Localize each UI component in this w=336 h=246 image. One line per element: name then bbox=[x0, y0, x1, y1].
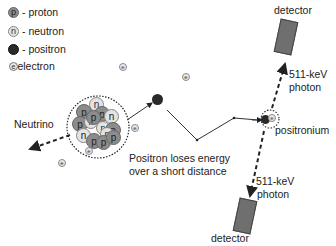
photon-arrow-up bbox=[272, 64, 285, 108]
detector-bottom-label: detector bbox=[211, 232, 249, 244]
proton-particle: p bbox=[106, 130, 121, 145]
neutrino-label: Neutrino bbox=[14, 118, 54, 130]
positron-path bbox=[167, 110, 258, 140]
photon-top-label-1: 511-keV bbox=[289, 68, 327, 80]
electron-particle: e bbox=[131, 124, 139, 132]
positronium-label: positronium bbox=[275, 124, 329, 136]
detector-top-label: detector bbox=[274, 4, 312, 16]
positron-travel-label-1: Positron loses energy bbox=[129, 152, 230, 164]
electron-particle: e bbox=[85, 147, 93, 155]
photon-bottom-label-1: 511-keV bbox=[256, 175, 294, 187]
positronium-electron: e bbox=[268, 114, 276, 122]
photon-bottom-label-2: photon bbox=[257, 188, 289, 200]
photon-top-label-2: photon bbox=[289, 81, 321, 93]
electron-particle: e bbox=[182, 73, 190, 81]
positron-travel-label-2: over a short distance bbox=[129, 165, 226, 177]
neutrino-arrow bbox=[30, 135, 70, 149]
positron-emission-arrow bbox=[127, 103, 152, 120]
positron-particle bbox=[152, 94, 163, 105]
electron-particle: e bbox=[58, 159, 66, 167]
electron-particle: e bbox=[119, 63, 127, 71]
